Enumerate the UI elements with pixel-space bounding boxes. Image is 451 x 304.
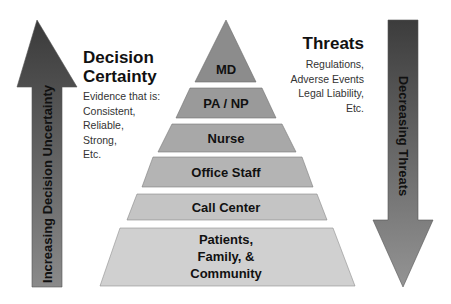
tier-label-line: Family, & (156, 248, 296, 265)
threats-heading: Threats (290, 34, 364, 53)
tier-label-line: Community (156, 265, 296, 282)
tier-label-patients: Patients, Family, & Community (156, 231, 296, 282)
evidence-line: Strong, (83, 133, 160, 148)
tier-label-line: Patients, (156, 231, 296, 248)
heading-line-2: Certainty (83, 67, 160, 86)
evidence-line: Reliable, (83, 118, 160, 133)
threat-line: Legal Liability, (290, 86, 364, 101)
decision-certainty-heading: Decision Certainty (83, 48, 160, 86)
left-arrow-label: Increasing Decision Uncertainty (40, 85, 55, 283)
tier-label-md: MD (176, 61, 276, 78)
decision-certainty-block: Decision Certainty Evidence that is: Con… (83, 48, 160, 162)
threat-line: Etc. (290, 101, 364, 116)
tier-label-call-center: Call Center (156, 199, 296, 216)
evidence-list: Evidence that is: Consistent, Reliable, … (83, 89, 160, 162)
tier-label-nurse: Nurse (176, 130, 276, 147)
heading-line-1: Decision (83, 48, 160, 67)
threat-line: Adverse Events (290, 72, 364, 87)
tier-label-pa-np: PA / NP (176, 95, 276, 112)
tier-label-office-staff: Office Staff (156, 164, 296, 181)
threats-list: Regulations, Adverse Events Legal Liabil… (290, 57, 364, 115)
evidence-line: Etc. (83, 147, 160, 162)
threats-block: Threats Regulations, Adverse Events Lega… (290, 34, 364, 115)
evidence-line: Consistent, (83, 104, 160, 119)
right-arrow-label: Decreasing Threats (396, 76, 411, 197)
evidence-line: Evidence that is: (83, 89, 160, 104)
threat-line: Regulations, (290, 57, 364, 72)
